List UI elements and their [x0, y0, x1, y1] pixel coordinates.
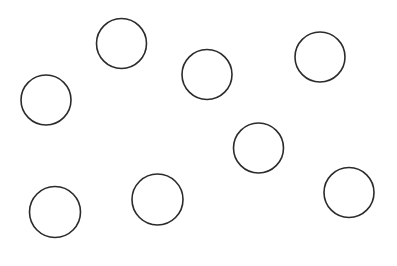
circle-5	[234, 123, 284, 173]
diagram-canvas	[0, 0, 397, 266]
circle-7	[30, 187, 81, 238]
circle-6	[324, 168, 374, 218]
circle-3	[182, 50, 232, 100]
circle-8	[132, 174, 183, 225]
circle-2	[21, 75, 71, 125]
circle-4	[295, 32, 345, 82]
circle-1	[97, 19, 147, 69]
circles-diagram	[0, 0, 397, 266]
